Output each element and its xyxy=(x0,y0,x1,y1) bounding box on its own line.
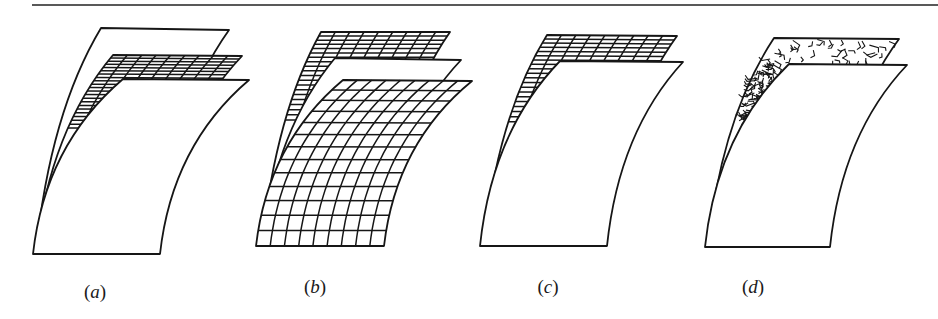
figure-drawing xyxy=(0,0,938,319)
front-plain-sheet xyxy=(480,61,683,246)
panel-a-label: (a) xyxy=(65,281,125,303)
panel-d-label: (d) xyxy=(723,276,783,298)
front-plain-sheet xyxy=(705,64,907,247)
panel-b-drawing xyxy=(256,32,472,246)
panel-a-drawing xyxy=(33,28,249,254)
panel-b-label: (b) xyxy=(285,276,345,298)
panel-b-letter: b xyxy=(310,276,320,297)
panel-c-label: (c) xyxy=(518,276,578,298)
panel-d-letter: d xyxy=(748,276,758,297)
panel-a-letter: a xyxy=(90,281,100,302)
panel-c-letter: c xyxy=(544,276,552,297)
panel-d-drawing xyxy=(705,38,907,247)
panel-c-drawing xyxy=(480,35,683,246)
laminate-layup-figure: (a) (b) (c) (d) xyxy=(0,0,938,319)
